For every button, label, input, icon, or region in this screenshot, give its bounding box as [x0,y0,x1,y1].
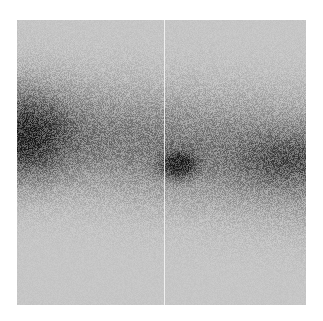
image-frame [0,0,323,321]
density-image [17,20,306,305]
vertical-seam-line [164,20,165,305]
density-image-canvas [17,20,306,305]
